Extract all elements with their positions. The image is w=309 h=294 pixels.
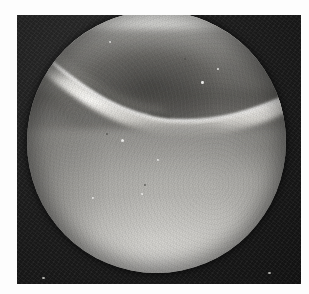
circular-field-of-view [27, 15, 286, 273]
photo-page [0, 0, 309, 294]
frame-speck [42, 277, 45, 279]
photograph-frame [17, 15, 301, 284]
frame-speck [268, 272, 271, 274]
fov-vignette [27, 15, 286, 273]
